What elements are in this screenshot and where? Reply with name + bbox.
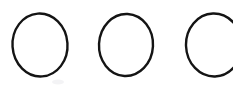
circles-figure [0, 0, 233, 93]
pencil-smudge-mark [52, 80, 64, 85]
figure-canvas [0, 0, 233, 93]
